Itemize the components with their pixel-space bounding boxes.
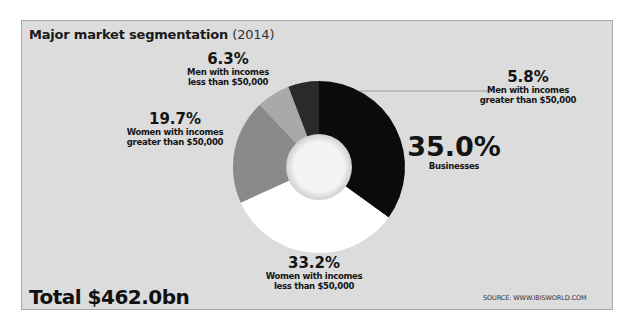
label-women-lt: 33.2% Women with incomes less than $50,0… [250,255,378,291]
donut-hole [286,134,352,200]
label-pct: 33.2% [250,255,378,271]
label-desc: greater than $50,000 [112,137,238,147]
label-men-gt: 5.8% Men with incomes greater than $50,0… [468,69,588,105]
label-women-gt: 19.7% Women with incomes greater than $5… [112,111,238,147]
label-men-lt: 6.3% Men with incomes less than $50,000 [168,51,288,87]
label-desc: less than $50,000 [168,77,288,87]
label-desc: greater than $50,000 [468,95,588,105]
label-desc: Women with incomes [112,127,238,137]
label-desc: Men with incomes [468,85,588,95]
label-pct: 19.7% [112,111,238,127]
label-desc: Women with incomes [250,271,378,281]
label-businesses: 35.0% Businesses [406,133,502,171]
label-pct: 6.3% [168,51,288,67]
label-pct: 5.8% [468,69,588,85]
label-desc: less than $50,000 [250,281,378,291]
label-pct: 35.0% [406,133,502,161]
total-value: Total $462.0bn [29,285,189,309]
source-note: SOURCE: WWW.IBISWORLD.COM [483,294,587,302]
label-desc: Businesses [406,161,502,171]
label-desc: Men with incomes [168,67,288,77]
